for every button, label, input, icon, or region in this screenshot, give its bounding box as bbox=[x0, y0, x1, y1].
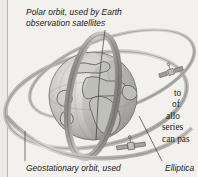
caption-polar-orbit: Polar orbit, used by Earth observation s… bbox=[26, 7, 151, 28]
body-text-line: to bbox=[162, 88, 198, 99]
body-text-line: can pas bbox=[162, 134, 198, 145]
body-text-line: of bbox=[162, 99, 198, 110]
clipped-body-text-column: to of allo series can pas bbox=[162, 88, 198, 145]
body-text-line: allo bbox=[162, 111, 198, 122]
figure-canvas: Polar orbit, used by Earth observation s… bbox=[0, 0, 198, 177]
body-text-line: series bbox=[162, 122, 198, 133]
caption-elliptical-orbit: Elliptica bbox=[165, 163, 198, 174]
caption-geostationary-orbit: Geostationary orbit, used bbox=[26, 163, 156, 174]
earth-globe bbox=[49, 52, 150, 148]
